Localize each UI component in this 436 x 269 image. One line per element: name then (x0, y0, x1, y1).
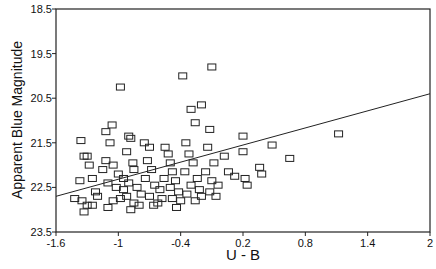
data-point (191, 198, 199, 204)
data-point (212, 193, 220, 199)
data-point (161, 144, 169, 150)
data-point (151, 182, 159, 188)
data-point (231, 173, 239, 179)
data-point (83, 153, 91, 159)
data-point (243, 182, 251, 188)
data-point (189, 160, 197, 166)
data-point (91, 189, 99, 195)
data-point (130, 200, 138, 206)
data-point (214, 182, 222, 188)
data-point (241, 175, 249, 181)
data-point (206, 126, 214, 132)
x-axis-label: U - B (226, 246, 260, 263)
y-axis-ticks: 18.519.520.521.522.523.5 (31, 3, 56, 238)
data-point (204, 144, 212, 150)
data-point (208, 178, 216, 184)
chart: 18.519.520.521.522.523.5 -1.6-1-0.40.20.… (0, 0, 436, 269)
data-point (286, 155, 294, 161)
y-tick-label: 20.5 (31, 92, 52, 104)
data-point (160, 175, 168, 181)
data-point (99, 167, 107, 173)
x-tick-label: -0.4 (171, 237, 190, 249)
scatter-plot: 18.519.520.521.522.523.5 -1.6-1-0.40.20.… (0, 0, 436, 269)
data-point (168, 196, 176, 202)
data-point (182, 140, 190, 146)
data-point (125, 180, 133, 186)
x-tick-label: 0.8 (298, 237, 313, 249)
data-point (175, 189, 183, 195)
x-tick-label: 2 (427, 237, 433, 249)
x-tick-label: -1 (113, 237, 123, 249)
data-point (108, 122, 116, 128)
y-tick-label: 18.5 (31, 3, 52, 15)
data-point (106, 140, 114, 146)
y-tick-label: 21.5 (31, 137, 52, 149)
y-tick-label: 19.5 (31, 48, 52, 60)
data-point (156, 187, 164, 193)
data-point (173, 204, 181, 210)
y-tick-label: 22.5 (31, 181, 52, 193)
data-point (123, 149, 131, 155)
data-point (127, 207, 135, 213)
data-point (127, 135, 135, 141)
data-point (166, 184, 174, 190)
data-point (197, 102, 205, 108)
data-point (220, 153, 228, 159)
data-point (125, 133, 133, 139)
data-point (102, 129, 110, 135)
x-tick-label: 1.4 (360, 237, 375, 249)
data-point (195, 187, 203, 193)
data-point (168, 169, 176, 175)
data-point (114, 171, 122, 177)
data-point (88, 175, 96, 181)
data-point (208, 64, 216, 70)
data-point (164, 151, 172, 157)
data-point (141, 175, 149, 181)
data-point (88, 202, 96, 208)
data-point (80, 209, 88, 215)
data-point (187, 182, 195, 188)
data-point (137, 191, 145, 197)
data-point (268, 142, 276, 148)
data-point (133, 184, 141, 190)
data-point (77, 138, 85, 144)
data-point (224, 169, 232, 175)
data-point (171, 178, 179, 184)
data-point (179, 73, 187, 79)
data-point (206, 189, 214, 195)
data-point (76, 178, 84, 184)
data-point (191, 120, 199, 126)
data-point (143, 158, 151, 164)
x-tick-label: -1.6 (47, 237, 66, 249)
data-point (210, 160, 218, 166)
data-point (104, 204, 112, 210)
data-point (85, 162, 93, 168)
y-axis-label: Apparent Blue Magnitude (9, 41, 25, 199)
data-point (181, 169, 189, 175)
data-point (146, 144, 154, 150)
data-point (123, 193, 131, 199)
data-point (256, 164, 264, 170)
data-point (239, 133, 247, 139)
data-point (135, 202, 143, 208)
data-point (183, 191, 191, 197)
data-point (258, 171, 266, 177)
data-point (116, 84, 124, 90)
data-point (335, 131, 343, 137)
data-point (80, 153, 88, 159)
data-point (187, 106, 195, 112)
data-point (140, 140, 148, 146)
data-point (197, 193, 205, 199)
data-point (83, 202, 91, 208)
data-point (193, 175, 201, 181)
data-point (185, 151, 193, 157)
data-point (239, 149, 247, 155)
data-point (130, 167, 138, 173)
plot-frame (56, 9, 430, 232)
data-point (202, 169, 210, 175)
data-point (129, 160, 137, 166)
data-point (177, 198, 185, 204)
data-point (146, 193, 154, 199)
data-points (71, 64, 343, 215)
data-point (94, 193, 102, 199)
